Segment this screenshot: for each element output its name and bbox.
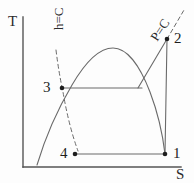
state-point-1-marker	[163, 152, 168, 157]
state-point-1-label: 1	[173, 146, 181, 161]
state-point-4-label: 4	[60, 146, 68, 161]
saturation-dome-curve	[37, 48, 165, 165]
state-point-2-label: 2	[174, 31, 182, 46]
process-line-2-to-1	[165, 39, 167, 154]
state-point-4-marker	[73, 152, 78, 157]
state-point-2-marker	[165, 37, 170, 42]
isobaric-line-solid	[138, 39, 167, 88]
ts-diagram-figure: T S h=C P=C 1 2 3 4	[0, 0, 194, 183]
state-point-3-marker	[60, 86, 65, 91]
y-axis-label: T	[8, 14, 17, 29]
state-point-3-label: 3	[43, 80, 51, 95]
x-axis-label: S	[176, 167, 184, 182]
isenthalpic-curve-label: h=C	[52, 7, 65, 30]
isenthalpic-dashed-curve	[56, 50, 78, 151]
